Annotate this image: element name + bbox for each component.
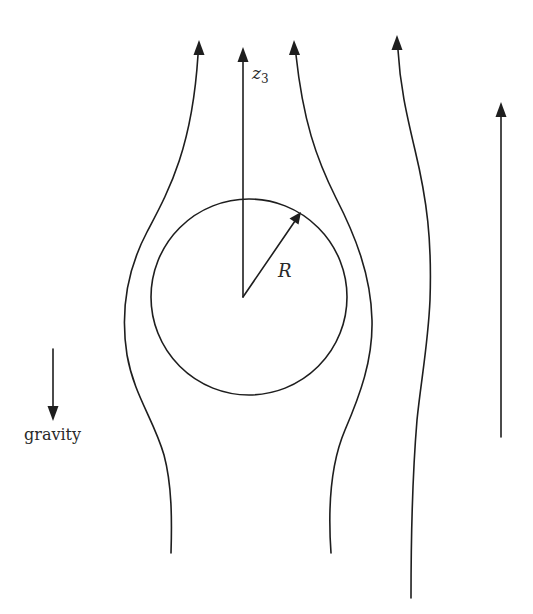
gravity-arrow-head-icon	[48, 406, 59, 421]
left-streamline-arrow-head-icon	[194, 40, 205, 55]
radius-arrow-head-icon	[290, 212, 302, 225]
uniform-flow-arrow	[496, 102, 507, 437]
radius-arrow	[243, 212, 301, 297]
gravity-arrow	[48, 349, 59, 421]
z3-axis-label: z3	[251, 63, 269, 86]
sphere-circle	[151, 199, 347, 395]
outer-right-streamline-arrow-head-icon	[392, 35, 403, 50]
inner-right-streamline	[289, 40, 372, 553]
inner-right-streamline-arrow-head-icon	[289, 40, 300, 55]
gravity-label: gravity	[24, 425, 81, 444]
radius-label: R	[277, 260, 292, 281]
outer-right-streamline	[392, 35, 431, 598]
z3-arrow-head-icon	[238, 47, 249, 62]
uniform-flow-arrow-head-icon	[496, 102, 507, 117]
z3-axis	[238, 47, 249, 297]
flow-diagram: z3 R gravity	[0, 0, 533, 614]
z3-axis-subscript: 3	[261, 72, 269, 86]
left-streamline	[124, 40, 204, 553]
